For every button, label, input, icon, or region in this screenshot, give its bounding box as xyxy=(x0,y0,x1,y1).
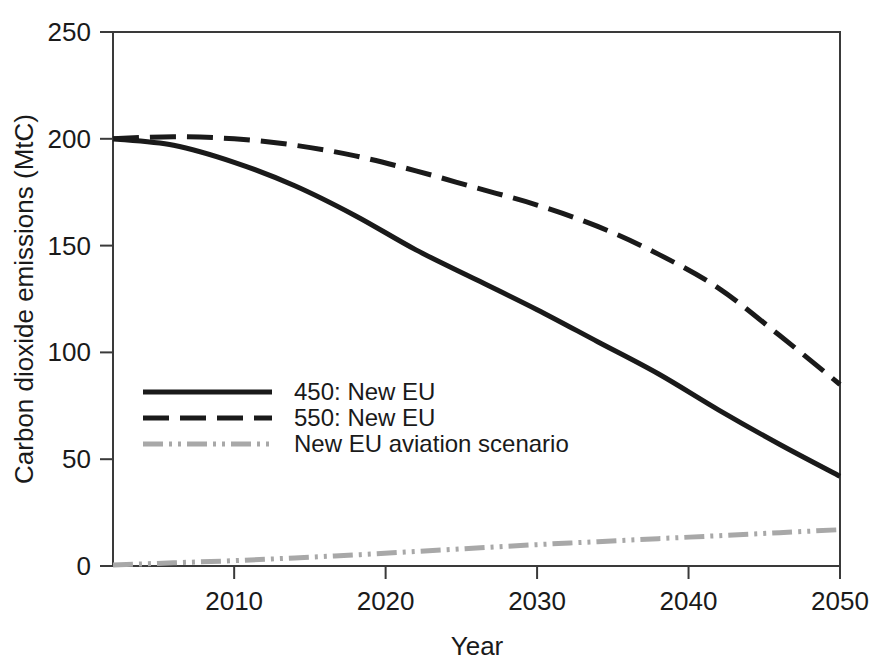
y-axis-ticks: 050100150200250 xyxy=(48,17,113,581)
x-tick-label: 2040 xyxy=(660,586,718,616)
y-tick-label: 50 xyxy=(62,444,91,474)
y-tick-label: 100 xyxy=(48,337,91,367)
x-tick-label: 2020 xyxy=(357,586,415,616)
x-axis-ticks: 20102020203020402050 xyxy=(205,566,869,616)
y-tick-label: 250 xyxy=(48,17,91,47)
data-series-layer xyxy=(113,137,840,565)
legend-label-450: 450: New EU xyxy=(294,378,435,405)
chart-figure: 050100150200250 20102020203020402050 Yea… xyxy=(0,0,878,668)
legend-entry-aviation: New EU aviation scenario xyxy=(143,430,569,457)
emissions-line-chart: 050100150200250 20102020203020402050 Yea… xyxy=(0,0,878,668)
y-tick-label: 150 xyxy=(48,231,91,261)
series-line-2 xyxy=(113,530,840,565)
series-line-0 xyxy=(113,139,840,476)
x-axis-title: Year xyxy=(451,631,504,661)
y-axis-title: Carbon dioxide emissions (MtC) xyxy=(9,114,39,484)
chart-legend: 450: New EU 550: New EU New EU aviation … xyxy=(143,378,569,457)
x-tick-label: 2010 xyxy=(205,586,263,616)
series-line-1 xyxy=(113,137,840,385)
legend-label-550: 550: New EU xyxy=(294,404,435,431)
legend-entry-550: 550: New EU xyxy=(143,404,435,431)
x-tick-label: 2030 xyxy=(508,586,566,616)
y-tick-label: 0 xyxy=(77,551,91,581)
x-tick-label: 2050 xyxy=(811,586,869,616)
y-tick-label: 200 xyxy=(48,124,91,154)
legend-entry-450: 450: New EU xyxy=(143,378,435,405)
legend-label-aviation: New EU aviation scenario xyxy=(294,430,569,457)
